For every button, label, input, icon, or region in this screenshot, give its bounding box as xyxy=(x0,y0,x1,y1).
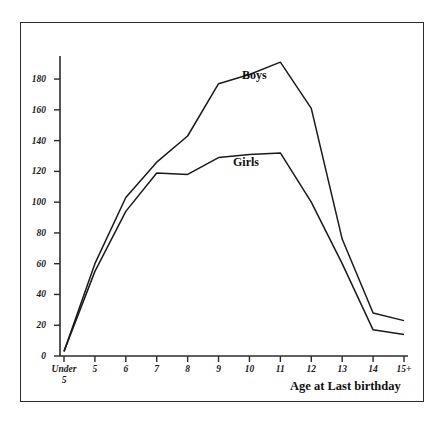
y-tick-label: 140 xyxy=(20,136,46,146)
x-axis-title: Age at Last birthday xyxy=(290,379,401,394)
y-tick-label: 120 xyxy=(20,166,46,176)
y-tick-label: 40 xyxy=(20,289,46,299)
series-label-girls: Girls xyxy=(233,155,259,170)
y-tick-label: 100 xyxy=(20,197,46,207)
y-tick-label: 60 xyxy=(20,259,46,269)
x-axis-ticks xyxy=(64,356,404,362)
series-line-girls xyxy=(64,153,404,351)
y-axis-ticks xyxy=(54,79,60,356)
series-label-boys: Boys xyxy=(242,68,267,83)
y-tick-label: 20 xyxy=(20,320,46,330)
y-tick-label: 180 xyxy=(20,74,46,84)
chart-page: 020406080100120140160180 Under5567891011… xyxy=(0,0,445,427)
x-tick-label: 15+ xyxy=(384,364,424,375)
chart-plot-area xyxy=(0,0,445,427)
series-line-boys xyxy=(64,62,404,351)
y-tick-label: 160 xyxy=(20,105,46,115)
y-tick-label: 0 xyxy=(20,351,46,361)
y-tick-label: 80 xyxy=(20,228,46,238)
